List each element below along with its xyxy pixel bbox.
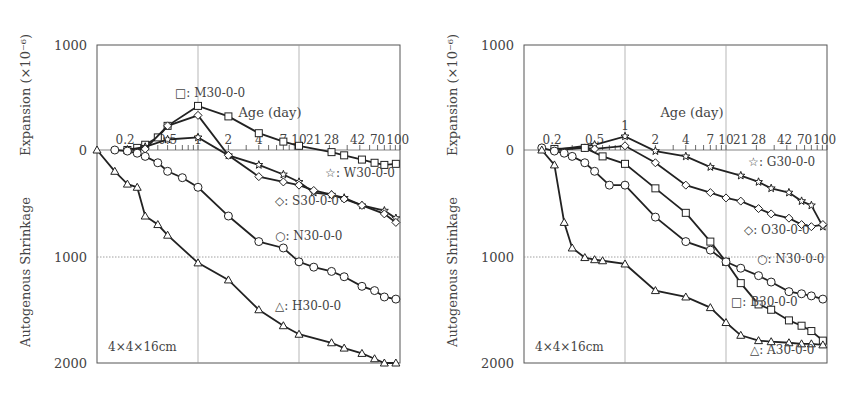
x-tick-label: 2 xyxy=(225,133,233,147)
legend-O30-0-0: ◇: O30-0-0 xyxy=(744,223,810,237)
chart-right-plot: 0.20.512471021284270100Age (day)10000100… xyxy=(427,0,855,394)
x-tick-label: 21 xyxy=(733,133,748,147)
chart-right: 0.20.512471021284270100Age (day)10000100… xyxy=(427,0,855,394)
y-axis-label-shrinkage: Autogenous Shrinkage xyxy=(18,197,33,348)
x-tick-label: 100 xyxy=(386,133,409,147)
y-axis-label-expansion: Expansion (×10⁻⁶) xyxy=(18,34,33,156)
y-axis-label-shrinkage: Autogenous Shrinkage xyxy=(445,197,460,348)
x-tick-label: 28 xyxy=(751,133,766,147)
y-tick-label: 2000 xyxy=(481,356,514,371)
y-tick-label: 2000 xyxy=(54,356,87,371)
x-axis-label: Age (day) xyxy=(237,105,301,120)
y-tick-label: 0 xyxy=(506,143,514,158)
legend-A30-0-0: △: A30-0-0 xyxy=(750,343,814,357)
y-tick-label: 1000 xyxy=(481,38,514,53)
specimen-label: 4×4×16cm xyxy=(108,340,177,354)
chart-left-plot: 0.20.512471021284270100Age (day)10000100… xyxy=(0,0,427,394)
legend-N30-0-0: ○: N30-0-0 xyxy=(275,229,342,243)
x-tick-label: 42 xyxy=(350,133,365,147)
legend-H30-0-0: △: H30-0-0 xyxy=(275,299,341,313)
x-tick-label: 4 xyxy=(682,133,690,147)
y-axis-label-expansion: Expansion (×10⁻⁶) xyxy=(445,34,460,156)
y-tick-label: 1000 xyxy=(54,250,87,265)
x-tick-label: 21 xyxy=(306,133,321,147)
x-tick-label: 7 xyxy=(707,133,715,147)
legend-B30-0-0: □: B30-0-0 xyxy=(731,295,798,309)
specimen-label: 4×4×16cm xyxy=(535,340,604,354)
x-tick-label: 2 xyxy=(652,133,660,147)
x-tick-label: 42 xyxy=(777,133,792,147)
x-tick-label: 0.2 xyxy=(543,133,562,147)
x-tick-label: 100 xyxy=(813,133,836,147)
x-tick-label: 70 xyxy=(797,133,812,147)
x-tick-label: 70 xyxy=(370,133,385,147)
legend-S30-0-0: ◇: S30-0-0 xyxy=(275,194,339,208)
x-axis-label: Age (day) xyxy=(659,105,723,120)
y-tick-label: 1000 xyxy=(481,250,514,265)
legend-N30-0-0: ○: N30-0-0 xyxy=(757,252,824,266)
x-tick-label: 0.2 xyxy=(116,133,135,147)
x-tick-label: 28 xyxy=(324,133,339,147)
chart-left: 0.20.512471021284270100Age (day)10000100… xyxy=(0,0,427,394)
legend-W30-0-0: ☆: W30-0-0 xyxy=(325,166,395,180)
y-tick-label: 0 xyxy=(79,143,87,158)
legend-G30-0-0: ☆: G30-0-0 xyxy=(748,155,815,169)
series-line-H30-0-0 xyxy=(97,150,396,363)
legend-M30-0-0: □: M30-0-0 xyxy=(175,86,245,100)
y-tick-label: 1000 xyxy=(54,38,87,53)
x-tick-label: 10 xyxy=(718,133,733,147)
